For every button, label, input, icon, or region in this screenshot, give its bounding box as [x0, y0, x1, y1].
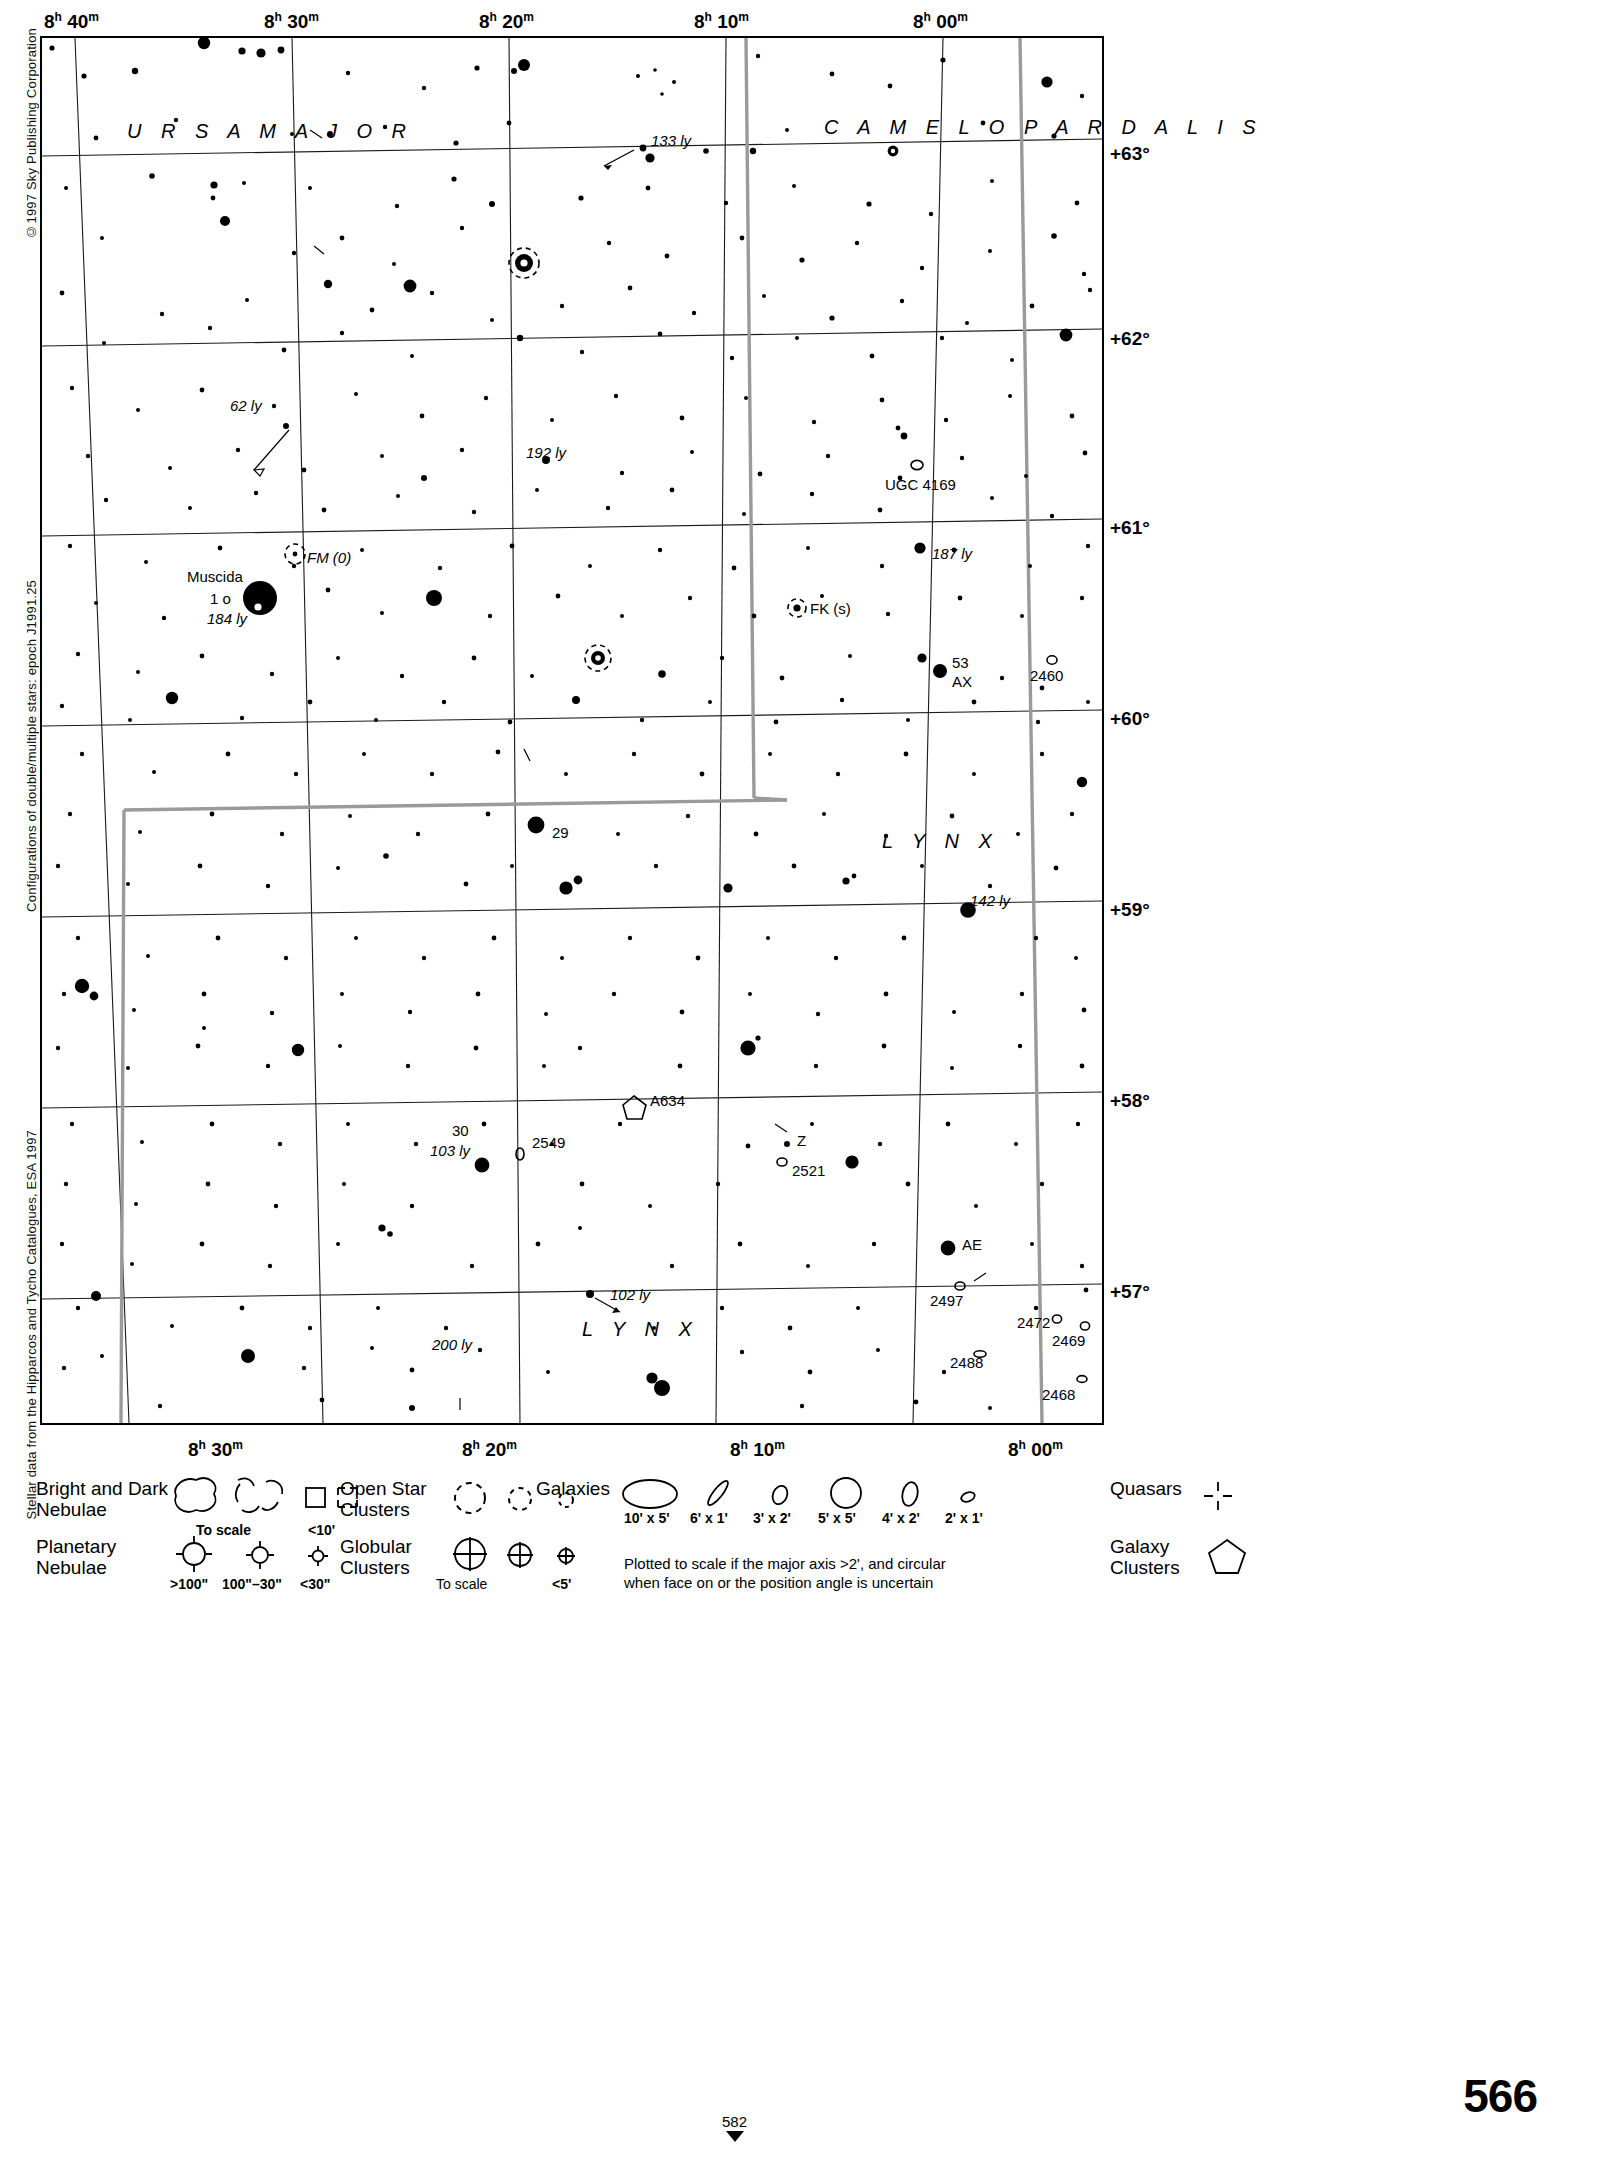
ra-tick-bottom-2: 8h 10m [730, 1438, 785, 1461]
continuation-page-number: 582 [722, 2113, 747, 2130]
legend-planetary-large-caption: >100" [170, 1576, 208, 1592]
star-fm-variable [293, 552, 298, 557]
dec-tick-5: +58° [1110, 1090, 1150, 1112]
galaxy-cluster-icon [1206, 1536, 1250, 1576]
label-2488: 2488 [950, 1354, 983, 1371]
dec-tick-0: +63° [1110, 143, 1150, 165]
star-chart-page: ©1997 Sky Publishing Corporation Configu… [0, 0, 1597, 2167]
globular-cluster-symbols [448, 1532, 598, 1576]
legend-galaxy-note-line2: when face on or the position angle is un… [624, 1573, 1040, 1592]
nebula-symbols [166, 1472, 346, 1524]
label-2468: 2468 [1042, 1386, 1075, 1403]
label-192ly: 192 ly [526, 444, 568, 461]
legend-galaxy-size-2: 3' x 2' [753, 1510, 791, 1526]
label-2497: 2497 [930, 1292, 963, 1309]
label-a634: A634 [650, 1092, 685, 1109]
label-2521: 2521 [792, 1162, 825, 1179]
star-133ly [640, 145, 647, 152]
galaxy-2460 [1047, 656, 1057, 664]
legend-galaxy-size-4: 4' x 2' [882, 1510, 920, 1526]
label-2460: 2460 [1030, 667, 1063, 684]
declination-gridlines [42, 139, 1102, 1299]
legend-globular-to-scale-caption: To scale [436, 1576, 487, 1592]
continuation-marker[interactable]: 582 [722, 2113, 747, 2142]
label-1-omicron: 1 ο [210, 590, 231, 607]
ra-tick-top-0: 8h 40m [44, 10, 99, 33]
label-fk: FK (s) [810, 600, 851, 617]
ra-tick-top-1: 8h 30m [264, 10, 319, 33]
star-62ly [283, 423, 289, 429]
label-ugc4169: UGC 4169 [885, 476, 956, 493]
label-30: 30 [452, 1122, 469, 1139]
dec-tick-1: +62° [1110, 328, 1150, 350]
legend-globular-small-caption: <5' [552, 1576, 571, 1592]
galaxy-2469 [1080, 1322, 1089, 1330]
copyright-credit: ©1997 Sky Publishing Corporation [24, 28, 39, 239]
label-ae: AE [962, 1236, 982, 1253]
label-142ly: 142 ly [970, 892, 1012, 909]
label-200ly: 200 ly [431, 1336, 474, 1353]
constellation-boundary [121, 38, 1042, 1423]
sky-chart-map[interactable]: U R S A M A J O R C A M E L O P A R D A … [40, 36, 1104, 1425]
chart-legend: Bright and Dark Nebulae To scale <10' [28, 1478, 1568, 1598]
quasar-icon [1200, 1480, 1240, 1512]
star-ae-variable [941, 1241, 956, 1256]
dec-tick-6: +57° [1110, 1281, 1150, 1303]
label-187ly: 187 ly [932, 545, 974, 562]
ra-tick-bottom-3: 8h 00m [1008, 1438, 1063, 1461]
ra-tick-bottom-1: 8h 20m [462, 1438, 517, 1461]
ra-tick-bottom-0: 8h 30m [188, 1438, 243, 1461]
label-2549: 2549 [532, 1134, 565, 1151]
star-z-variable [784, 1141, 790, 1147]
ra-tick-top-2: 8h 20m [479, 10, 534, 33]
legend-galaxy-size-0: 10' x 5' [624, 1510, 670, 1526]
label-62ly: 62 ly [230, 397, 263, 414]
object-labels: 133 ly 62 ly 192 ly UGC 4169 FM (0) 187 … [187, 132, 1085, 1403]
double-star-configs [310, 130, 986, 1410]
hipparcos-data-credit: Stellar data from the Hipparcos and Tych… [24, 1130, 39, 1519]
label-z: Z [797, 1132, 806, 1149]
ra-tick-top-4: 8h 00m [913, 10, 968, 33]
label-184ly: 184 ly [207, 610, 249, 627]
label-53: 53 [952, 654, 969, 671]
galaxy-symbols [620, 1468, 1040, 1514]
legend-planetary-small-caption: <30" [300, 1576, 330, 1592]
right-ascension-gridlines [75, 38, 943, 1423]
label-2469: 2469 [1052, 1332, 1085, 1349]
star-187ly [914, 542, 925, 553]
label-muscida: Muscida [187, 568, 244, 585]
constellation-label-camelopardalis: C A M E L O P A R D A L I S [824, 116, 1263, 138]
star-102ly [586, 1290, 594, 1298]
proper-motion-arrows [254, 150, 634, 1313]
legend-galaxy-size-3: 5' x 5' [818, 1510, 856, 1526]
label-29: 29 [552, 824, 569, 841]
label-133ly: 133 ly [651, 132, 693, 149]
constellation-label-lynx-lower: L Y N X [582, 1318, 699, 1340]
label-2472: 2472 [1017, 1314, 1050, 1331]
star-fk-variable [793, 604, 800, 611]
galaxy-2521 [777, 1158, 787, 1166]
galaxy-2468 [1077, 1376, 1087, 1383]
sky-chart-canvas: U R S A M A J O R C A M E L O P A R D A … [42, 38, 1102, 1423]
star-53-lyncis [917, 653, 926, 662]
dec-tick-2: +61° [1110, 517, 1150, 539]
page-number: 566 [1463, 2069, 1537, 2123]
label-102ly: 102 ly [610, 1286, 652, 1303]
constellation-label-lynx-upper: L Y N X [882, 830, 999, 852]
star-30 [475, 1158, 490, 1173]
star-ax-variable [933, 664, 947, 678]
galaxy-2472 [1052, 1315, 1061, 1323]
legend-galaxy-size-5: 2' x 1' [945, 1510, 983, 1526]
star-29 [528, 817, 545, 834]
ra-tick-top-3: 8h 10m [694, 10, 749, 33]
dec-tick-3: +60° [1110, 708, 1150, 730]
legend-galaxy-note-line1: Plotted to scale if the major axis >2', … [624, 1554, 1040, 1573]
label-fm: FM (0) [307, 549, 351, 566]
double-star-epoch-credit: Configurations of double/multiple stars:… [24, 580, 39, 912]
galaxy-2549 [516, 1148, 524, 1160]
label-103ly: 103 ly [430, 1142, 472, 1159]
planetary-nebula-symbols [166, 1530, 356, 1576]
legend-planetary-mid-caption: 100"–30" [222, 1576, 282, 1592]
chevron-down-icon [726, 2131, 744, 2142]
constellation-label-ursa-major: U R S A M A J O R [127, 120, 413, 142]
